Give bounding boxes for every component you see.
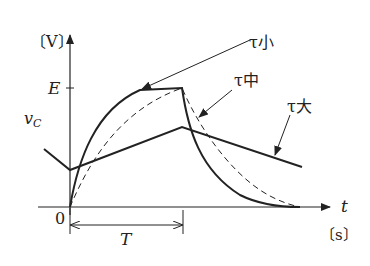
tau-small-label: τ小 <box>249 33 274 52</box>
rc-charging-diagram: 〔V〕 E vC 0 T t 〔s〕 τ小 τ中 τ大 <box>0 0 370 266</box>
origin-label: 0 <box>55 209 65 228</box>
tau-medium-label: τ中 <box>234 71 259 90</box>
s-unit-label: 〔s〕 <box>320 226 358 244</box>
tau-large-label: τ大 <box>287 97 312 116</box>
curve-tau-large <box>44 127 302 170</box>
e-tick-label: E <box>47 78 61 98</box>
vc-main: v <box>24 109 33 128</box>
curve-tau-small <box>70 88 300 207</box>
vc-subscript: C <box>33 117 42 130</box>
t-axis-label: t <box>341 196 348 216</box>
vc-label: vC <box>24 109 42 130</box>
tau-medium-leader <box>199 90 232 117</box>
tau-large-leader <box>275 115 290 155</box>
y-unit-label: 〔V〕 <box>30 32 74 51</box>
period-label: T <box>120 229 133 249</box>
